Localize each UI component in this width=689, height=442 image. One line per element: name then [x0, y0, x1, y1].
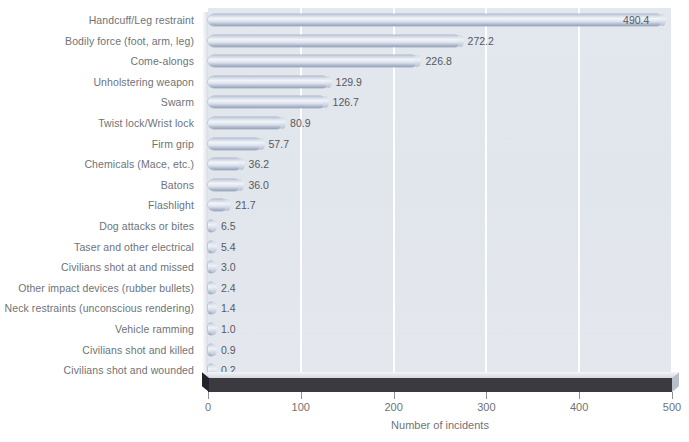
bar — [208, 199, 228, 211]
bar-end-cap — [210, 302, 217, 314]
bar-end-cap — [210, 241, 217, 253]
bar-end-cap — [210, 344, 217, 356]
category-label: Twist lock/Wrist lock — [0, 117, 194, 129]
bar-end-cap — [414, 55, 421, 67]
bar-end-cap — [322, 96, 329, 108]
bar — [208, 55, 418, 67]
x-tick-0 — [208, 392, 209, 399]
category-label: Batons — [0, 179, 194, 191]
bar-value-label: 126.7 — [333, 96, 359, 108]
bar-value-label: 2.4 — [221, 282, 236, 294]
gridline-400 — [578, 8, 580, 378]
bar — [208, 138, 262, 150]
bar — [208, 35, 461, 47]
x-tick-200 — [394, 392, 395, 399]
category-label: Chemicals (Mace, etc.) — [0, 158, 194, 170]
category-label: Neck restraints (unconscious rendering) — [0, 302, 194, 314]
bar-value-label: 490.4 — [623, 14, 649, 26]
x-tick-500 — [672, 392, 673, 399]
bar-value-label: 1.4 — [221, 302, 236, 314]
category-label: Civilians shot at and missed — [0, 261, 194, 273]
bar-end-cap — [210, 261, 217, 273]
bar-end-cap — [210, 282, 217, 294]
category-label: Come-alongs — [0, 55, 194, 67]
gridline-300 — [485, 8, 487, 378]
bar — [208, 261, 214, 273]
bar — [208, 14, 663, 26]
bar-value-label: 3.0 — [221, 261, 236, 273]
category-label: Vehicle ramming — [0, 323, 194, 335]
bar — [208, 302, 214, 314]
bar-value-label: 36.0 — [248, 179, 268, 191]
category-label: Dog attacks or bites — [0, 220, 194, 232]
bar-value-label: 36.2 — [249, 158, 269, 170]
category-label: Civilians shot and wounded — [0, 364, 194, 376]
bar — [208, 96, 326, 108]
bar-end-cap — [238, 158, 245, 170]
bar-value-label: 272.2 — [468, 35, 494, 47]
x-tick-300 — [486, 392, 487, 399]
bar — [208, 241, 214, 253]
bar-end-cap — [224, 199, 231, 211]
bar-value-label: 5.4 — [221, 241, 236, 253]
x-tick-100 — [301, 392, 302, 399]
x-tick-label: 500 — [652, 401, 689, 413]
bar — [208, 76, 329, 88]
base-slab — [208, 378, 672, 392]
bar — [208, 323, 214, 335]
bar-end-cap — [279, 117, 286, 129]
bar-end-cap — [659, 14, 666, 26]
bar — [208, 158, 242, 170]
bar-end-cap — [237, 179, 244, 191]
bar-end-cap — [210, 323, 217, 335]
bar-value-label: 80.9 — [290, 117, 310, 129]
category-label: Flashlight — [0, 199, 194, 211]
bar-value-label: 226.8 — [425, 55, 451, 67]
x-tick-label: 100 — [281, 401, 321, 413]
bar-end-cap — [210, 220, 217, 232]
category-label: Other impact devices (rubber bullets) — [0, 282, 194, 294]
category-label: Unholstering weapon — [0, 76, 194, 88]
bar — [208, 344, 214, 356]
gridline-500 — [671, 8, 673, 378]
category-label: Civilians shot and killed — [0, 344, 194, 356]
bar-end-cap — [457, 35, 464, 47]
bar — [208, 282, 214, 294]
bar — [208, 220, 214, 232]
category-label: Handcuff/Leg restraint — [0, 14, 194, 26]
bar — [208, 179, 241, 191]
bar-end-cap — [258, 138, 265, 150]
x-tick-label: 400 — [559, 401, 599, 413]
category-label: Swarm — [0, 96, 194, 108]
category-label: Bodily force (foot, arm, leg) — [0, 35, 194, 47]
x-tick-label: 300 — [466, 401, 506, 413]
bar-value-label: 6.5 — [221, 220, 236, 232]
bar-value-label: 129.9 — [336, 76, 362, 88]
bar-value-label: 21.7 — [235, 199, 255, 211]
bar-chart: Handcuff/Leg restraintBodily force (foot… — [0, 0, 689, 442]
category-label: Taser and other electrical — [0, 241, 194, 253]
bar — [208, 117, 283, 129]
bar-value-label: 57.7 — [269, 138, 289, 150]
x-tick-label: 0 — [188, 401, 228, 413]
category-label: Firm grip — [0, 138, 194, 150]
bar-end-cap — [325, 76, 332, 88]
x-tick-400 — [579, 392, 580, 399]
bar-value-label: 0.9 — [221, 344, 236, 356]
x-tick-label: 200 — [374, 401, 414, 413]
x-axis-title: Number of incidents — [208, 419, 672, 431]
category-axis-labels: Handcuff/Leg restraintBodily force (foot… — [0, 0, 200, 378]
bar-value-label: 1.0 — [221, 323, 236, 335]
